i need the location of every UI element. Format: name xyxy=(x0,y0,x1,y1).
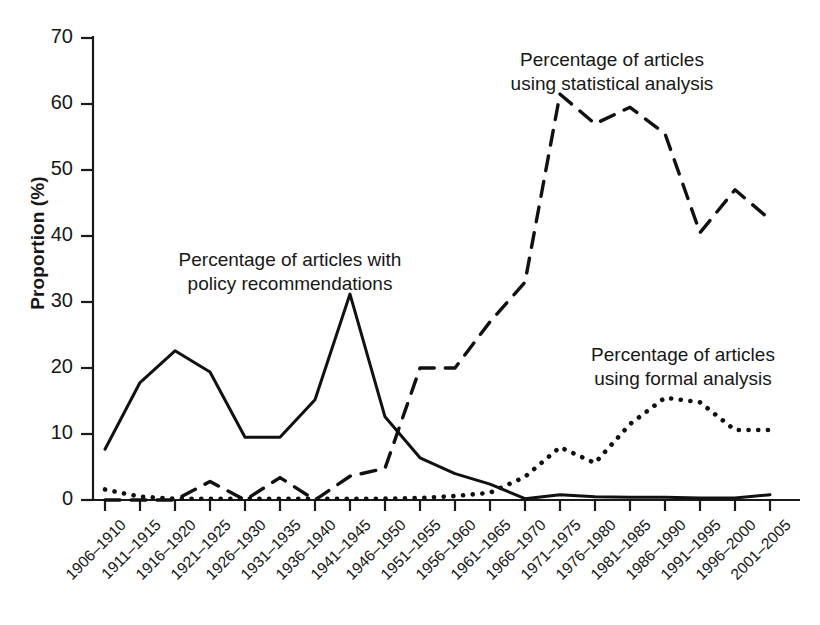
y-tick-label: 20 xyxy=(27,355,73,378)
formal-analysis-label: Percentage of articlesusing formal analy… xyxy=(591,343,775,392)
policy-recommendations-label: Percentage of articles withpolicy recomm… xyxy=(179,248,402,297)
y-tick-label: 60 xyxy=(27,91,73,114)
formal-analysis-label-line: Percentage of articles xyxy=(591,343,775,367)
statistical-analysis-label-line: Percentage of articles xyxy=(511,48,714,72)
data-series-group xyxy=(105,94,770,500)
y-tick-label: 0 xyxy=(27,487,73,510)
statistical-analysis-label-line: using statistical analysis xyxy=(511,72,714,96)
policy-recommendations-label-line: Percentage of articles with xyxy=(179,248,402,272)
chart-figure: Proportion (%) 706050403020100 1906–1910… xyxy=(0,0,820,625)
y-tick-label: 30 xyxy=(27,289,73,312)
statistical-analysis-label: Percentage of articlesusing statistical … xyxy=(511,48,714,97)
formal-analysis-label-line: using formal analysis xyxy=(591,367,775,391)
y-tick-label: 10 xyxy=(27,421,73,444)
y-tick-label: 70 xyxy=(27,25,73,48)
y-tick-label: 40 xyxy=(27,223,73,246)
series-line-1 xyxy=(105,94,770,500)
policy-recommendations-label-line: policy recommendations xyxy=(179,272,402,296)
y-tick-label: 50 xyxy=(27,157,73,180)
